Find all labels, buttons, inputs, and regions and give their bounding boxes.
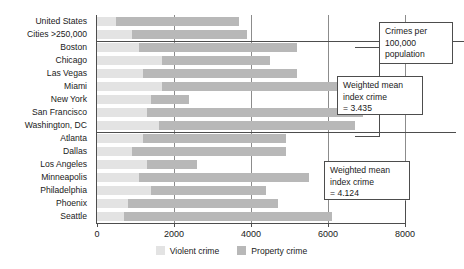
leader-line-mean-upper-to-divider [355, 136, 380, 137]
bar-segment [97, 95, 151, 104]
callout-mean-lower-line-1: Weighted mean [330, 165, 404, 177]
bar-segment [132, 147, 286, 156]
callout-units-line-1: Crimes per [385, 26, 447, 38]
bar-segment [97, 134, 143, 143]
bar-segment [139, 43, 297, 52]
bar-segment [97, 43, 139, 52]
category-label: United States [35, 15, 87, 28]
category-label: Minneapolis [41, 171, 87, 184]
category-label: Washington, DC [25, 119, 87, 132]
bar-row [97, 15, 405, 28]
x-tick-mark [328, 223, 329, 227]
callout-weighted-mean-lower: Weighted mean index crime = 4.124 [324, 161, 410, 200]
bar-segment [97, 82, 162, 91]
category-label: Las Vegas [47, 67, 87, 80]
bar-segment [162, 56, 270, 65]
bar-segment [97, 186, 151, 195]
legend-swatch-icon [237, 246, 246, 255]
leader-line-units [355, 47, 379, 48]
callout-units-line-3: population [385, 49, 447, 61]
callout-mean-upper-line-1: Weighted mean [343, 80, 417, 92]
bar-segment [97, 121, 159, 130]
category-label: New York [51, 93, 87, 106]
x-tick-label: 8000 [395, 229, 415, 239]
category-label-column: United StatesCities >250,000BostonChicag… [0, 15, 91, 223]
x-tick-mark [405, 223, 406, 227]
x-tick-label: 4000 [241, 229, 261, 239]
bar-segment [97, 30, 132, 39]
bar-segment [97, 173, 139, 182]
bar-segment [159, 121, 355, 130]
legend-label: Property crime [251, 246, 307, 256]
x-tick-mark [174, 223, 175, 227]
bar-segment [116, 17, 239, 26]
legend-item[interactable]: Property crime [237, 246, 307, 256]
group-divider [96, 132, 456, 133]
bar-segment [97, 69, 143, 78]
bar-segment [97, 108, 147, 117]
leader-line-units-to-mean-upper [379, 63, 380, 77]
legend-label: Violent crime [170, 246, 220, 256]
bar-segment [139, 173, 308, 182]
bar-segment [151, 186, 267, 195]
category-label: Chicago [55, 54, 87, 67]
callout-mean-upper-line-2: index crime [343, 92, 417, 104]
x-tick-label: 0 [94, 229, 99, 239]
callout-mean-upper-line-3: = 3.435 [343, 103, 417, 115]
category-label: Miami [64, 80, 87, 93]
category-label: San Francisco [32, 106, 87, 119]
category-label: Cities >250,000 [27, 28, 87, 41]
bar-row [97, 28, 405, 41]
x-tick-label: 6000 [318, 229, 338, 239]
category-label: Phoenix [56, 197, 87, 210]
bar-row [97, 145, 405, 158]
callout-units-line-2: 100,000 [385, 38, 447, 50]
bar-segment [147, 160, 197, 169]
callout-units: Crimes per 100,000 population [379, 22, 453, 64]
bar-segment [97, 212, 124, 221]
x-tick-mark [97, 223, 98, 227]
bar-row [97, 54, 405, 67]
leader-line-mean-lower-down [405, 201, 406, 223]
callout-weighted-mean-upper: Weighted mean index crime = 3.435 [337, 76, 423, 115]
bar-segment [147, 108, 363, 117]
x-tick-mark [251, 223, 252, 227]
bar-segment [143, 134, 285, 143]
bar-segment [97, 199, 128, 208]
x-tick-label: 2000 [164, 229, 184, 239]
bar-row [97, 210, 405, 223]
category-label: Boston [60, 41, 87, 54]
legend-item[interactable]: Violent crime [156, 246, 220, 256]
bar-row [97, 132, 405, 145]
bar-segment [97, 56, 162, 65]
category-label: Seattle [60, 210, 87, 223]
bar-segment [124, 212, 332, 221]
leader-line-mean-upper-down [379, 114, 380, 136]
category-label: Philadelphia [40, 184, 87, 197]
bar-segment [97, 160, 147, 169]
bar-segment [143, 69, 297, 78]
bar-segment [128, 199, 278, 208]
category-label: Dallas [63, 145, 87, 158]
category-label: Los Angeles [40, 158, 87, 171]
bar-segment [97, 17, 116, 26]
callout-mean-lower-line-3: = 4.124 [330, 188, 404, 200]
bar-row [97, 119, 405, 132]
bar-segment [132, 30, 248, 39]
chart-legend: Violent crimeProperty crime [0, 246, 463, 256]
category-label: Atlanta [60, 132, 87, 145]
callout-mean-lower-line-2: index crime [330, 177, 404, 189]
bar-segment [151, 95, 190, 104]
legend-swatch-icon [156, 246, 165, 255]
bar-segment [97, 147, 132, 156]
